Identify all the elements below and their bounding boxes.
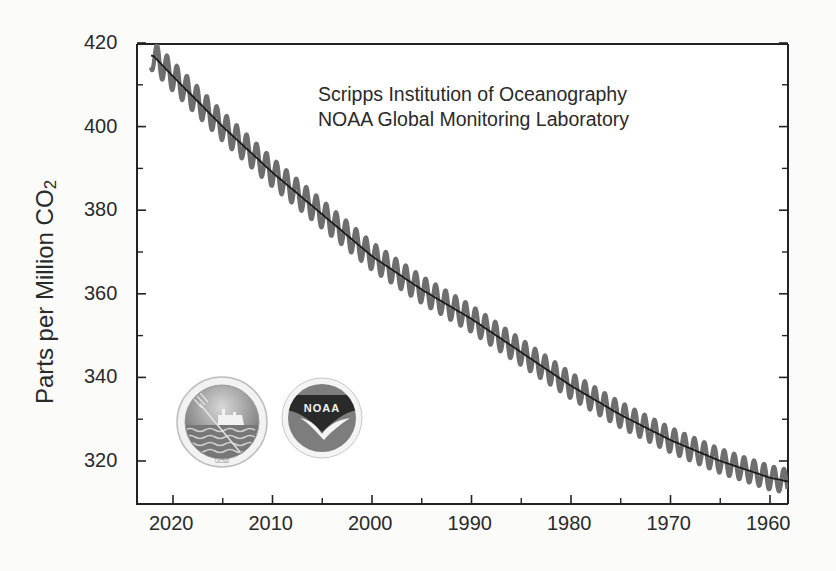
x-tick-label: 1960 xyxy=(746,512,791,535)
x-tick-label: 2020 xyxy=(149,512,194,535)
noaa-logo: NOAA xyxy=(282,378,362,458)
y-tick-label: 400 xyxy=(84,115,117,138)
x-tick-label: 1970 xyxy=(647,512,692,535)
y-axis-title: Parts per Million CO2 xyxy=(31,180,61,404)
y-tick-label: 420 xyxy=(84,31,117,54)
x-tick-label: 2010 xyxy=(249,512,294,535)
credit-scripps: Scripps Institution of Oceanography xyxy=(318,82,629,107)
x-tick-label: 2000 xyxy=(348,512,393,535)
y-tick-label: 320 xyxy=(84,449,117,472)
y-tick-label: 380 xyxy=(84,198,117,221)
x-tick-label: 1980 xyxy=(547,512,592,535)
credit-noaa: NOAA Global Monitoring Laboratory xyxy=(318,107,629,132)
svg-text:UCSD: UCSD xyxy=(215,458,230,464)
y-tick-label: 340 xyxy=(84,365,117,388)
x-tick-label: 1990 xyxy=(448,512,493,535)
chart-credits: Scripps Institution of Oceanography NOAA… xyxy=(318,82,629,132)
noaa-logo-text: NOAA xyxy=(304,402,340,414)
y-tick-label: 360 xyxy=(84,282,117,305)
